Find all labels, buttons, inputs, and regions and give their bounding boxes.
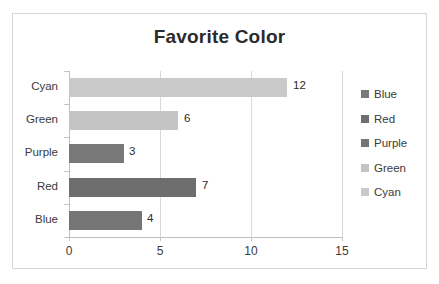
x-tickmark (69, 237, 70, 241)
x-tickmark (251, 237, 252, 241)
legend-swatch-icon-green (361, 164, 369, 172)
legend-swatch-icon-purple (361, 139, 369, 147)
legend-label-red: Red (374, 113, 395, 125)
legend-swatch-icon-red (361, 115, 369, 123)
bar-value-blue: 4 (147, 212, 153, 224)
category-label-purple: Purple (25, 146, 58, 158)
x-tickmark (160, 237, 161, 241)
x-tickmark (342, 237, 343, 241)
x-axis-line (69, 237, 343, 238)
legend-swatch-icon-cyan (361, 188, 369, 196)
legend-item-purple[interactable]: Purple (361, 131, 425, 156)
bar-red[interactable] (69, 178, 196, 197)
x-tick-label-10: 10 (244, 244, 257, 258)
category-label-green: Green (26, 113, 58, 125)
x-tick-label-0: 0 (66, 244, 73, 258)
legend-label-cyan: Cyan (374, 186, 401, 198)
legend-label-purple: Purple (374, 137, 407, 149)
legend-item-cyan[interactable]: Cyan (361, 180, 425, 205)
x-tick-label-15: 15 (335, 244, 348, 258)
bar-row-cyan: Cyan 12 (69, 71, 342, 104)
category-label-red: Red (37, 180, 58, 192)
bar-value-red: 7 (202, 179, 208, 191)
chart-title: Favorite Color (13, 26, 426, 48)
bar-value-green: 6 (184, 112, 190, 124)
legend-label-blue: Blue (374, 88, 397, 100)
bar-purple[interactable] (69, 144, 124, 163)
category-label-cyan: Cyan (31, 80, 58, 92)
chart-frame: Favorite Color Cyan 12 Green 6 Purple 3 (12, 13, 427, 269)
legend-swatch-icon-blue (361, 90, 369, 98)
x-tick-label-5: 5 (157, 244, 164, 258)
chart-legend: Blue Red Purple Green Cyan (361, 82, 425, 205)
legend-item-blue[interactable]: Blue (361, 82, 425, 107)
bar-row-red: Red 7 (69, 171, 342, 204)
bar-cyan[interactable] (69, 78, 287, 97)
plot-area: Cyan 12 Green 6 Purple 3 Red 7 Blue 4 (69, 71, 342, 237)
bar-value-cyan: 12 (293, 79, 306, 91)
bar-row-purple: Purple 3 (69, 137, 342, 170)
category-label-blue: Blue (35, 213, 58, 225)
bar-blue[interactable] (69, 211, 142, 230)
gridline-15 (342, 71, 343, 237)
bar-row-green: Green 6 (69, 104, 342, 137)
bar-value-purple: 3 (129, 145, 135, 157)
legend-label-green: Green (374, 162, 406, 174)
legend-item-red[interactable]: Red (361, 107, 425, 132)
bar-row-blue: Blue 4 (69, 204, 342, 237)
bar-green[interactable] (69, 111, 178, 130)
legend-item-green[interactable]: Green (361, 156, 425, 181)
